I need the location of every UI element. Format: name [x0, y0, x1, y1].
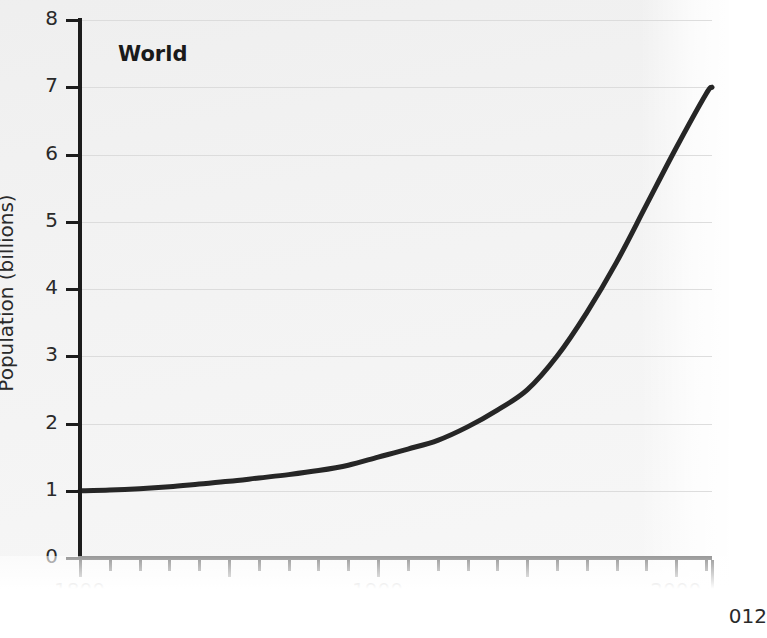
y-axis-title: Population (billions)	[0, 13, 18, 573]
y-axis-tick-label: 6	[32, 141, 58, 165]
y-axis-tick-label: 8	[32, 6, 58, 30]
y-axis-tick	[66, 423, 79, 426]
y-axis-tick	[66, 86, 79, 89]
y-axis-tick-label: 5	[32, 208, 58, 232]
y-axis-tick-label: 7	[32, 73, 58, 97]
page-bottom-fade	[0, 556, 729, 638]
y-axis-tick-label: 3	[32, 342, 58, 366]
y-axis-tick	[66, 490, 79, 493]
panel-label: World	[118, 42, 187, 66]
y-axis-tick	[66, 154, 79, 157]
y-axis-tick-label: 4	[32, 275, 58, 299]
y-axis-tick	[66, 355, 79, 358]
y-axis-tick-label: 1	[32, 477, 58, 501]
y-axis-tick-label: 2	[32, 410, 58, 434]
y-axis-tick	[66, 19, 79, 22]
series-layer	[80, 20, 712, 558]
y-axis-tick	[66, 221, 79, 224]
plot-area	[80, 20, 712, 558]
y-axis-tick	[66, 288, 79, 291]
world-population-line	[80, 87, 712, 491]
